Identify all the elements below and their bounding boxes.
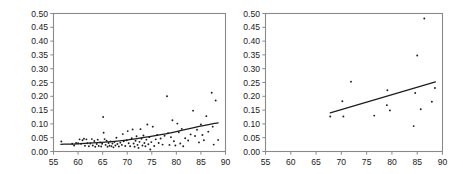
data-point (181, 128, 183, 130)
data-point (373, 115, 375, 117)
data-point (93, 140, 95, 142)
x-tick-label: 80 (172, 157, 182, 167)
data-point (115, 137, 117, 139)
data-point (153, 145, 155, 147)
scatter-panel-left: 0.000.050.100.150.200.250.300.350.400.45… (0, 0, 232, 174)
data-point (111, 145, 113, 147)
x-tick-label: 85 (412, 157, 422, 167)
data-point (109, 145, 111, 147)
plot-right-yticklabels: 0.000.050.100.150.200.250.300.350.400.45… (243, 9, 260, 157)
data-point (124, 145, 126, 147)
data-point (342, 116, 344, 118)
data-point (102, 116, 104, 118)
data-point (97, 139, 99, 141)
data-point (101, 143, 103, 145)
x-tick-label: 90 (221, 157, 231, 167)
data-point (149, 149, 151, 151)
figure-container: 0.000.050.100.150.200.250.300.350.400.45… (0, 0, 463, 174)
data-point (83, 138, 85, 140)
data-point (129, 145, 131, 147)
data-point (203, 139, 205, 141)
plot-right-trendline (330, 82, 435, 113)
y-tick-label: 0.15 (243, 105, 260, 115)
data-point (215, 99, 217, 101)
y-tick-label: 0.00 (243, 147, 260, 157)
scatter-plot-left-svg: 0.000.050.100.150.200.250.300.350.400.45… (0, 0, 232, 174)
y-tick-label: 0.40 (243, 36, 260, 46)
data-point (350, 81, 352, 83)
data-point (155, 138, 157, 140)
data-point (198, 141, 200, 143)
data-point (179, 143, 181, 145)
data-point (420, 108, 422, 110)
data-point (135, 140, 137, 142)
data-point (423, 18, 425, 20)
data-point (91, 138, 93, 140)
data-point (194, 135, 196, 137)
data-point (140, 128, 142, 130)
y-tick-label: 0.20 (31, 91, 48, 101)
data-point (414, 92, 416, 94)
data-point (88, 145, 90, 147)
data-point (147, 143, 149, 145)
data-point (192, 110, 194, 112)
y-tick-label: 0.10 (31, 119, 48, 129)
y-tick-label: 0.35 (243, 50, 260, 60)
data-point (217, 139, 219, 141)
y-tick-label: 0.00 (31, 147, 48, 157)
data-point (389, 109, 391, 111)
x-tick-label: 70 (337, 157, 347, 167)
data-point (169, 144, 171, 146)
plot-right-datapoints (329, 18, 436, 128)
scatter-panel-right: 0.000.050.100.150.200.250.300.350.400.45… (232, 0, 463, 174)
data-point (176, 123, 178, 125)
data-point (138, 147, 140, 149)
data-point (104, 138, 106, 140)
data-point (122, 133, 124, 135)
data-point (103, 132, 105, 134)
data-point (212, 126, 214, 128)
y-tick-label: 0.15 (31, 105, 48, 115)
data-point (170, 136, 172, 138)
data-point (200, 124, 202, 126)
plot-left-datapoints (60, 92, 219, 151)
data-point (137, 144, 139, 146)
y-tick-label: 0.25 (31, 78, 48, 88)
x-tick-label: 75 (362, 157, 372, 167)
plot-left-frame (54, 14, 226, 152)
data-point (139, 141, 141, 143)
y-tick-label: 0.10 (243, 119, 260, 129)
data-point (143, 142, 145, 144)
data-point (146, 124, 148, 126)
data-point (92, 144, 94, 146)
data-point (144, 145, 146, 147)
y-tick-label: 0.35 (31, 50, 48, 60)
data-point (187, 140, 189, 142)
y-tick-label: 0.30 (31, 64, 48, 74)
data-point (164, 135, 166, 137)
data-point (134, 146, 136, 148)
data-point (174, 144, 176, 146)
plot-left-ticks (50, 14, 225, 155)
data-point (107, 146, 109, 148)
data-point (136, 135, 138, 137)
data-point (150, 141, 152, 143)
data-point (85, 138, 87, 140)
x-tick-label: 60 (73, 157, 83, 167)
data-point (152, 126, 154, 128)
y-tick-label: 0.05 (31, 133, 48, 143)
x-tick-label: 85 (196, 157, 206, 167)
data-point (116, 143, 118, 145)
y-tick-label: 0.05 (243, 133, 260, 143)
plot-right-frame (266, 14, 443, 152)
data-point (205, 115, 207, 117)
data-point (142, 135, 144, 137)
data-point (158, 142, 160, 144)
data-point (79, 138, 81, 140)
data-point (182, 145, 184, 147)
data-point (132, 128, 134, 130)
data-point (82, 139, 84, 141)
data-point (105, 144, 107, 146)
data-point (145, 139, 147, 141)
x-tick-label: 55 (261, 157, 271, 167)
